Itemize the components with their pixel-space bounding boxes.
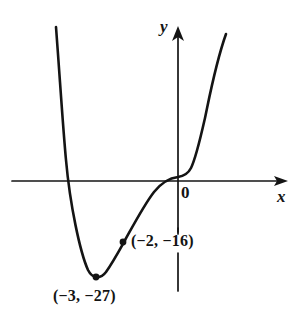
origin-label: 0 bbox=[181, 184, 190, 201]
point-label-minus2-minus16: (−2, −16) bbox=[131, 233, 194, 249]
x-axis-label: x bbox=[277, 188, 286, 205]
y-axis-label: y bbox=[160, 18, 168, 35]
point-label-minus3-minus27: (−3, −27) bbox=[53, 288, 116, 304]
graph-canvas bbox=[0, 0, 304, 316]
point-marker-minus3-minus27 bbox=[93, 274, 100, 281]
graph-figure: y x 0 (−2, −16) (−3, −27) bbox=[0, 0, 304, 316]
point-marker-minus2-minus16 bbox=[120, 239, 127, 246]
